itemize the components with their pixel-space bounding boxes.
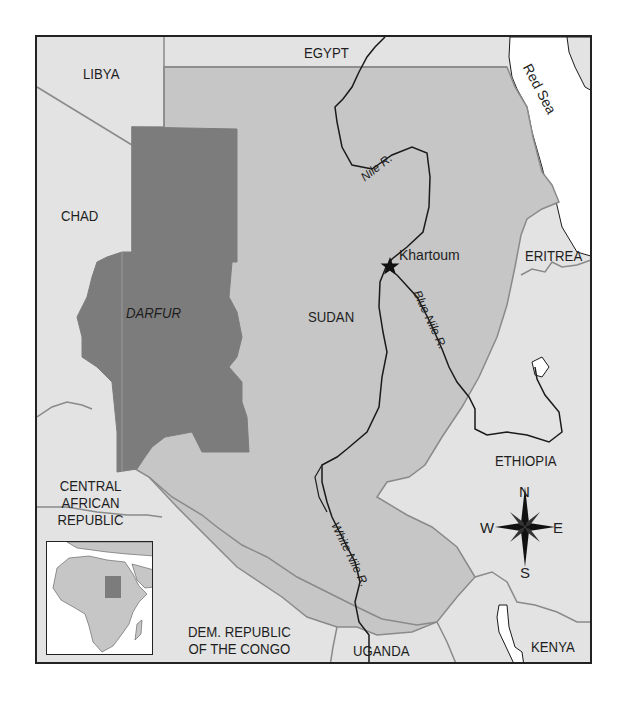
compass-n-label: N (519, 483, 530, 500)
label-darfur: DARFUR (126, 305, 181, 320)
inset-sudan-highlight (105, 576, 121, 598)
label-eritrea: ERITREA (525, 248, 582, 263)
label-ethiopia: ETHIOPIA (495, 453, 557, 468)
label-khartoum: Khartoum (399, 247, 460, 263)
label-libya: LIBYA (83, 66, 119, 81)
africa-silhouette-icon (47, 542, 153, 655)
map-frame: LIBYA EGYPT CHAD SUDAN ERITREA ETHIOPIA … (35, 35, 592, 664)
label-central-african-republic: CENTRAL AFRICAN REPUBLIC (58, 477, 124, 528)
label-kenya: KENYA (531, 639, 575, 654)
label-uganda: UGANDA (353, 643, 409, 658)
compass-w-label: W (480, 519, 494, 536)
compass-e-label: E (553, 519, 563, 536)
label-egypt: EGYPT (304, 45, 349, 60)
compass-s-label: S (520, 564, 530, 581)
africa-locator-inset (46, 541, 153, 655)
label-sudan: SUDAN (308, 309, 354, 324)
label-dem-republic-congo: DEM. REPUBLIC OF THE CONGO (188, 623, 291, 657)
label-chad: CHAD (61, 208, 98, 223)
